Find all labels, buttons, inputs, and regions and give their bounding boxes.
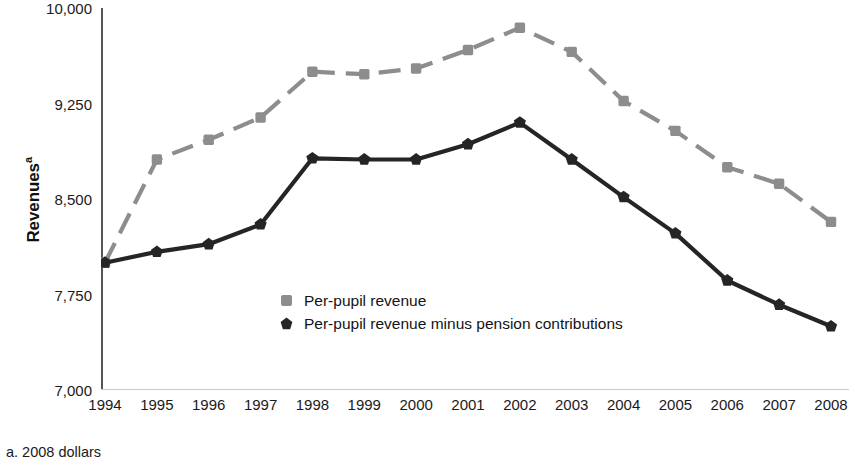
x-axis-tick-label: 2007 bbox=[762, 396, 795, 413]
x-axis-tick-label: 2005 bbox=[659, 396, 692, 413]
data-point-square-marker bbox=[255, 112, 265, 122]
x-axis-tick-label: 2008 bbox=[814, 396, 847, 413]
x-axis-tick-label: 1994 bbox=[88, 396, 121, 413]
data-point-square-marker bbox=[826, 217, 836, 227]
x-axis-tick-label: 2000 bbox=[399, 396, 432, 413]
y-axis-tick-label: 8,500 bbox=[0, 191, 100, 208]
chart-legend: Per-pupil revenue Per-pupil revenue minu… bbox=[280, 290, 623, 334]
data-point-pentagon-marker bbox=[358, 153, 370, 165]
data-point-pentagon-marker bbox=[306, 152, 318, 164]
y-axis-tick-label: 9,250 bbox=[0, 95, 100, 112]
y-axis-tick-label: 7,750 bbox=[0, 286, 100, 303]
data-point-square-marker bbox=[463, 45, 473, 55]
y-axis-tick-label: 10,000 bbox=[0, 0, 100, 17]
data-point-pentagon-marker bbox=[203, 238, 215, 250]
data-point-pentagon-marker bbox=[773, 298, 785, 310]
data-point-square-marker bbox=[515, 23, 525, 33]
data-point-square-marker bbox=[204, 135, 214, 145]
data-point-square-marker bbox=[618, 96, 628, 106]
data-point-pentagon-marker bbox=[151, 245, 163, 257]
data-point-pentagon-marker bbox=[514, 116, 526, 128]
revenue-line-chart: Revenuesa 7,0007,7508,5009,25010,000 199… bbox=[0, 0, 855, 471]
data-point-square-marker bbox=[307, 67, 317, 77]
x-axis-tick-label: 2001 bbox=[451, 396, 484, 413]
x-axis-tick-label: 2002 bbox=[503, 396, 536, 413]
legend-item-per-pupil-revenue-minus-pension: Per-pupil revenue minus pension contribu… bbox=[280, 313, 623, 334]
x-axis-tick-labels: 1994199519961997199819992000200120022003… bbox=[101, 396, 849, 420]
x-axis-tick-label: 2006 bbox=[711, 396, 744, 413]
legend-square-marker-icon bbox=[280, 294, 293, 307]
x-axis-tick-label: 1997 bbox=[244, 396, 277, 413]
data-point-square-marker bbox=[774, 179, 784, 189]
data-point-square-marker bbox=[411, 63, 421, 73]
y-axis-tick-label: 7,000 bbox=[0, 382, 100, 399]
x-axis-tick-label: 1995 bbox=[140, 396, 173, 413]
legend-pentagon-marker-icon bbox=[280, 317, 293, 330]
data-point-square-marker bbox=[152, 154, 162, 164]
x-axis-tick-label: 2004 bbox=[607, 396, 640, 413]
data-point-pentagon-marker bbox=[462, 138, 474, 150]
legend-label-1: Per-pupil revenue minus pension contribu… bbox=[304, 315, 623, 333]
data-point-square-marker bbox=[670, 126, 680, 136]
chart-footnote: a. 2008 dollars bbox=[6, 444, 101, 460]
data-point-pentagon-marker bbox=[825, 320, 837, 332]
legend-label-0: Per-pupil revenue bbox=[304, 292, 426, 310]
x-axis-tick-label: 1999 bbox=[348, 396, 381, 413]
x-axis-tick-label: 1998 bbox=[296, 396, 329, 413]
y-axis-tick-labels: 7,0007,7508,5009,25010,000 bbox=[0, 0, 100, 471]
data-point-square-marker bbox=[359, 69, 369, 79]
x-axis-tick-label: 2003 bbox=[555, 396, 588, 413]
data-point-square-marker bbox=[722, 162, 732, 172]
x-axis-tick-label: 1996 bbox=[192, 396, 225, 413]
data-point-pentagon-marker bbox=[410, 153, 422, 165]
legend-item-per-pupil-revenue: Per-pupil revenue bbox=[280, 290, 623, 311]
data-point-square-marker bbox=[567, 47, 577, 57]
